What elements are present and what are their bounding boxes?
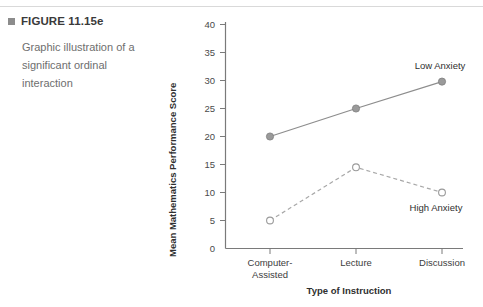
data-point-low-anxiety-lecture <box>352 105 359 112</box>
y-tick-label-10: 10 <box>204 187 215 198</box>
figure-caption-block: FIGURE 11.15e Graphic illustration of a … <box>8 14 163 92</box>
x-category-label-lecture: Lecture <box>340 257 372 268</box>
x-axis-tick-marks <box>270 249 442 255</box>
data-point-high-anxiety-discussion <box>439 189 446 196</box>
chart-canvas: Mean Mathematics Performance Score 40 35… <box>163 12 479 302</box>
y-tick-label-40: 40 <box>204 19 215 30</box>
figure-label: FIGURE 11.15e <box>21 14 103 28</box>
y-axis-tick-marks <box>220 25 225 221</box>
data-point-low-anxiety-computer-assisted <box>266 133 273 140</box>
y-tick-label-0: 0 <box>210 243 215 254</box>
x-category-label-computer-assisted-line1: Computer- <box>248 257 293 268</box>
x-axis-category-labels: Computer- Assisted Lecture Discussion <box>248 257 465 280</box>
series-label-low-anxiety: Low Anxiety <box>415 60 466 71</box>
series-low-anxiety: Low Anxiety <box>266 60 465 140</box>
y-tick-label-20: 20 <box>204 131 215 142</box>
data-point-high-anxiety-lecture <box>353 164 360 171</box>
series-high-anxiety: High Anxiety <box>267 164 463 224</box>
x-category-label-discussion: Discussion <box>419 257 465 268</box>
figure-caption-line-2: significant ordinal <box>22 56 154 74</box>
series-label-high-anxiety: High Anxiety <box>410 202 463 213</box>
top-divider <box>0 6 483 7</box>
line-chart: Mean Mathematics Performance Score 40 35… <box>163 12 479 302</box>
figure-caption-line-3: interaction <box>22 74 154 92</box>
figure-caption-line-1: Graphic illustration of a <box>22 38 154 56</box>
y-tick-label-25: 25 <box>204 103 215 114</box>
y-axis-tick-labels: 40 35 30 25 20 15 10 5 0 <box>204 19 215 254</box>
data-point-low-anxiety-discussion <box>438 78 445 85</box>
y-tick-label-15: 15 <box>204 159 215 170</box>
y-tick-label-35: 35 <box>204 47 215 58</box>
y-axis-title: Mean Mathematics Performance Score <box>167 83 178 257</box>
x-category-label-computer-assisted-line2: Assisted <box>252 269 288 280</box>
y-tick-label-30: 30 <box>204 75 215 86</box>
x-axis-title: Type of Instruction <box>307 285 392 296</box>
data-point-high-anxiety-computer-assisted <box>267 217 274 224</box>
y-tick-label-5: 5 <box>210 215 215 226</box>
square-bullet-icon <box>8 18 15 25</box>
figure-caption: Graphic illustration of a significant or… <box>22 38 154 92</box>
figure-label-row: FIGURE 11.15e <box>8 14 163 28</box>
